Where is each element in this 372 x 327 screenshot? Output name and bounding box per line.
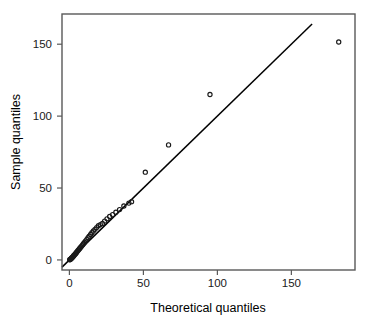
y-axis-title: Sample quantiles	[9, 94, 23, 190]
y-tick-label: 100	[33, 110, 52, 122]
y-tick-label: 50	[39, 182, 52, 194]
y-tick-label: 0	[46, 254, 52, 266]
x-tick-label: 50	[137, 277, 150, 289]
x-tick-label: 150	[282, 277, 301, 289]
x-tick-label: 0	[66, 277, 72, 289]
y-axis-ticks: 050100150	[33, 38, 62, 266]
x-axis-title: Theoretical quantiles	[150, 301, 265, 315]
plot-canvas: 050100150 050100150 Theoretical quantile…	[0, 0, 372, 327]
plot-panel-background	[62, 14, 355, 270]
y-tick-label: 150	[33, 38, 52, 50]
qq-plot-figure: 050100150 050100150 Theoretical quantile…	[0, 0, 372, 327]
x-axis-ticks: 050100150	[66, 270, 301, 289]
x-tick-label: 100	[208, 277, 227, 289]
